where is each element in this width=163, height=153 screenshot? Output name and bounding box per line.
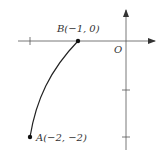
origin-label: O — [114, 44, 122, 55]
point-a-label: A(−2, −2) — [35, 132, 87, 143]
point-a — [28, 135, 32, 139]
curve-a-to-b — [30, 41, 78, 137]
coordinate-diagram: B(−1, 0) A(−2, −2) O — [0, 0, 163, 153]
point-b-label: B(−1, 0) — [56, 23, 100, 34]
point-b — [76, 39, 80, 43]
